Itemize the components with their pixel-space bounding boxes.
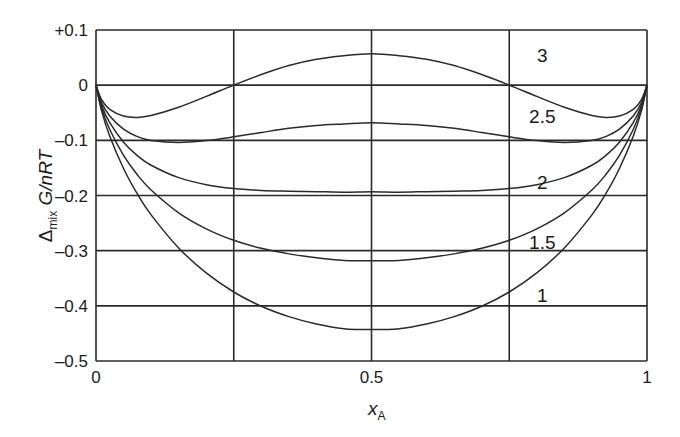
curve-label: 1.5: [529, 232, 555, 253]
y-tick-label: –0.2: [55, 187, 88, 206]
y-tick-label: +0.1: [54, 21, 88, 40]
x-tick-label: 1: [642, 368, 651, 387]
curve-label: 1: [537, 285, 548, 306]
y-axis-tick-labels: +0.10–0.1–0.2–0.3–0.4–0.5: [54, 21, 88, 371]
x-tick-label: 0: [91, 368, 100, 387]
curve-label: 3: [537, 45, 548, 66]
x-axis-tick-labels: 00.51: [91, 368, 651, 387]
chart: 32.521.51 +0.10–0.1–0.2–0.3–0.4–0.5 00.5…: [0, 0, 680, 437]
curve-labels: 32.521.51: [529, 45, 555, 306]
y-tick-label: –0.3: [55, 242, 88, 261]
x-axis-label-sub: A: [378, 409, 386, 423]
y-axis-label-rest: G/nRT: [35, 148, 56, 210]
x-tick-label: 0.5: [360, 368, 384, 387]
y-tick-label: –0.5: [55, 352, 88, 371]
y-axis-label-sub: mix: [46, 211, 60, 230]
gridlines: [96, 30, 647, 361]
curve-label: 2: [537, 172, 548, 193]
y-tick-label: –0.4: [55, 297, 88, 316]
y-tick-label: 0: [79, 76, 88, 95]
y-tick-label: –0.1: [55, 131, 88, 150]
y-axis-label-delta: Δ: [35, 229, 56, 242]
x-axis-label: xA: [367, 398, 386, 423]
curve-label: 2.5: [529, 106, 555, 127]
